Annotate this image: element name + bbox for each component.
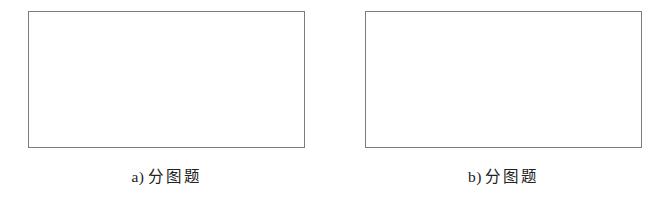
subfigure-enumerator-b: b) [468, 168, 482, 185]
subfigure-a: a)分图题 [28, 11, 305, 187]
subfigure-caption-text-a: 分图题 [148, 168, 202, 186]
subfigure-b: b)分图题 [365, 11, 642, 187]
figure-frame-b [365, 11, 642, 148]
figure-canvas-a [29, 12, 304, 147]
figure-frame-a [28, 11, 305, 148]
subfigure-enumerator-a: a) [131, 168, 144, 185]
subfigure-caption-a: a)分图题 [131, 167, 201, 187]
figure-canvas-b [366, 12, 641, 147]
subfigure-caption-b: b)分图题 [468, 167, 539, 187]
subfigure-caption-text-b: 分图题 [485, 168, 539, 186]
figure-group: a)分图题 b)分图题 [0, 0, 670, 200]
